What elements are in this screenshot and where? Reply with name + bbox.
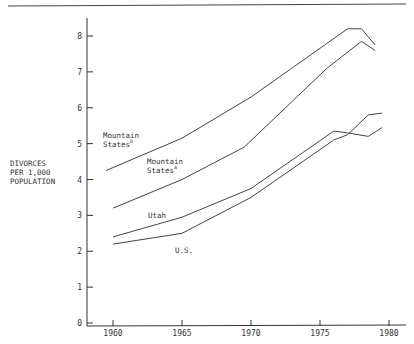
y-tick-label: 2 bbox=[77, 247, 82, 256]
series-label: Utah bbox=[148, 211, 166, 220]
y-axis-label-line: DIVORCES bbox=[10, 159, 47, 168]
x-tick-label: 1960 bbox=[103, 329, 122, 338]
y-tick-label: 3 bbox=[77, 211, 82, 220]
series-label: Mountain bbox=[147, 157, 183, 166]
y-axis-label-line: PER 1,000 bbox=[10, 168, 51, 177]
y-tick-label: 6 bbox=[77, 104, 82, 113]
axes: 01234567819601965197019751980 bbox=[77, 18, 406, 338]
series-line bbox=[113, 113, 382, 244]
y-axis-label: DIVORCESPER 1,000POPULATION bbox=[10, 159, 55, 186]
y-tick-label: 8 bbox=[77, 32, 82, 41]
series-label: Statesa bbox=[147, 164, 177, 175]
y-tick-label: 4 bbox=[77, 176, 82, 185]
x-axis bbox=[87, 325, 406, 326]
series-label: U.S. bbox=[175, 246, 193, 255]
series-line bbox=[113, 41, 375, 208]
x-tick-label: 1970 bbox=[241, 329, 260, 338]
x-tick-label: 1965 bbox=[172, 329, 191, 338]
x-tick-label: 1980 bbox=[379, 329, 398, 338]
series-label: Statesb bbox=[103, 138, 133, 149]
series-label: Mountain bbox=[103, 131, 139, 140]
y-axis-label-line: POPULATION bbox=[10, 177, 55, 186]
divorce-rate-line-chart: 01234567819601965197019751980 DIVORCESPE… bbox=[0, 0, 414, 344]
x-tick-label: 1975 bbox=[310, 329, 329, 338]
y-tick-label: 1 bbox=[77, 283, 82, 292]
y-tick-label: 5 bbox=[77, 140, 82, 149]
y-tick-label: 0 bbox=[77, 319, 82, 328]
y-tick-label: 7 bbox=[77, 68, 82, 77]
top-rule bbox=[8, 4, 406, 6]
